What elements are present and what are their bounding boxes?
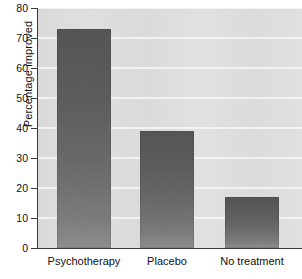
y-axis-title: Percentage improved [20,0,36,164]
bar-no-treatment [225,197,279,248]
y-tick-mark [31,248,37,249]
y-tick-label: 60 [4,63,28,73]
y-tick-mark [31,68,37,69]
y-tick-label: 30 [4,153,28,163]
y-axis-line [37,8,38,249]
plot-area [38,8,302,248]
y-tick-mark [31,8,37,9]
y-tick-mark [31,218,37,219]
x-tick-label: No treatment [192,255,302,268]
bar-texture [140,131,194,248]
y-tick-mark [31,98,37,99]
y-tick-label: 40 [4,123,28,133]
bar-placebo [140,131,194,248]
bar-texture [225,197,279,248]
y-tick-mark [31,128,37,129]
y-tick-label: 50 [4,93,28,103]
y-tick-label: 80 [4,3,28,13]
bar-chart-figure: Percentage improved 01020304050607080 Ps… [0,0,302,279]
y-tick-mark [31,188,37,189]
y-tick-label: 10 [4,213,28,223]
bar-psychotherapy [57,29,111,248]
y-tick-mark [31,158,37,159]
y-tick-label: 20 [4,183,28,193]
x-axis-line [37,248,302,249]
gridline [38,8,302,9]
y-tick-mark [31,38,37,39]
bar-texture [57,29,111,248]
y-tick-label: 0 [4,243,28,253]
y-tick-label: 70 [4,33,28,43]
